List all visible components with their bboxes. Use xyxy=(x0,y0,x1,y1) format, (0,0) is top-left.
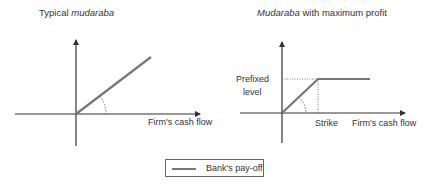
prefixed-level-label-line1: Prefixed xyxy=(236,74,269,84)
left-chart xyxy=(15,40,200,146)
legend: Bank's pay-off xyxy=(165,159,264,177)
legend-line-swatch xyxy=(172,168,196,170)
right-payoff-line xyxy=(282,79,370,113)
right-x-axis-label: Firm's cash flow xyxy=(352,118,416,128)
right-angle-arc xyxy=(299,97,306,113)
strike-label: Strike xyxy=(315,118,338,128)
left-payoff-line xyxy=(76,57,151,114)
legend-label: Bank's pay-off xyxy=(206,163,263,173)
left-x-axis-label: Firm's cash flow xyxy=(148,117,212,127)
prefixed-level-label-line2: level xyxy=(243,87,262,97)
left-angle-arc xyxy=(100,96,106,114)
